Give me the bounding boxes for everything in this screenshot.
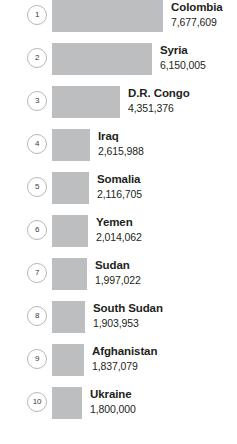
rank-badge: 6 — [27, 220, 47, 240]
chart-row: 3 D.R. Congo 4,351,376 — [0, 86, 237, 118]
country-label: D.R. Congo — [128, 85, 190, 101]
row-labels: Afghanistan 1,837,079 — [92, 343, 157, 374]
country-label: Yemen — [96, 214, 142, 230]
ranked-bar-chart: 1 Colombia 7,677,609 2 Syria 6,150,005 3… — [0, 0, 237, 444]
chart-row: 1 Colombia 7,677,609 — [0, 0, 237, 32]
chart-row: 10 Ukraine 1,800,000 — [0, 387, 237, 419]
value-bar — [52, 172, 89, 204]
row-labels: Syria 6,150,005 — [160, 42, 206, 73]
value-label: 2,014,062 — [96, 230, 142, 245]
value-label: 2,615,988 — [98, 144, 144, 159]
value-label: 7,677,609 — [171, 15, 223, 30]
country-label: Somalia — [97, 171, 142, 187]
rank-badge: 3 — [27, 91, 47, 111]
value-bar — [52, 86, 120, 118]
rank-label: 4 — [35, 140, 39, 148]
chart-row: 4 Iraq 2,615,988 — [0, 129, 237, 161]
value-bar — [52, 258, 87, 290]
value-label: 1,903,953 — [93, 316, 163, 331]
value-bar — [52, 301, 85, 333]
row-labels: Ukraine 1,800,000 — [90, 386, 136, 417]
value-bar — [52, 43, 152, 75]
row-labels: Iraq 2,615,988 — [98, 128, 144, 159]
rank-badge: 4 — [27, 134, 47, 154]
row-labels: Colombia 7,677,609 — [171, 0, 223, 30]
country-label: Ukraine — [90, 386, 136, 402]
rank-label: 3 — [35, 97, 39, 105]
row-labels: Sudan 1,997,022 — [95, 257, 141, 288]
value-label: 4,351,376 — [128, 101, 190, 116]
country-label: Afghanistan — [92, 343, 157, 359]
chart-row: 6 Yemen 2,014,062 — [0, 215, 237, 247]
rank-label: 9 — [35, 355, 39, 363]
row-labels: D.R. Congo 4,351,376 — [128, 85, 190, 116]
value-label: 2,116,705 — [97, 187, 142, 202]
row-labels: Yemen 2,014,062 — [96, 214, 142, 245]
chart-row: 5 Somalia 2,116,705 — [0, 172, 237, 204]
country-label: Colombia — [171, 0, 223, 15]
rank-badge: 2 — [27, 48, 47, 68]
country-label: Iraq — [98, 128, 144, 144]
rank-badge: 8 — [27, 306, 47, 326]
rank-label: 7 — [35, 269, 39, 277]
rank-badge: 1 — [27, 5, 47, 25]
rank-badge: 5 — [27, 177, 47, 197]
value-bar — [52, 215, 88, 247]
rank-label: 5 — [35, 183, 39, 191]
chart-row: 9 Afghanistan 1,837,079 — [0, 344, 237, 376]
value-label: 1,997,022 — [95, 273, 141, 288]
value-bar — [52, 0, 163, 32]
rank-label: 1 — [35, 11, 39, 19]
rank-label: 8 — [35, 312, 39, 320]
value-label: 1,800,000 — [90, 402, 136, 417]
value-label: 1,837,079 — [92, 359, 157, 374]
row-labels: South Sudan 1,903,953 — [93, 300, 163, 331]
value-label: 6,150,005 — [160, 58, 206, 73]
chart-row: 7 Sudan 1,997,022 — [0, 258, 237, 290]
country-label: Sudan — [95, 257, 141, 273]
value-bar — [52, 344, 84, 376]
value-bar — [52, 387, 82, 419]
rank-badge: 7 — [27, 263, 47, 283]
rank-badge: 9 — [27, 349, 47, 369]
row-labels: Somalia 2,116,705 — [97, 171, 142, 202]
country-label: South Sudan — [93, 300, 163, 316]
country-label: Syria — [160, 42, 206, 58]
rank-label: 10 — [33, 398, 42, 406]
chart-row: 2 Syria 6,150,005 — [0, 43, 237, 75]
rank-label: 6 — [35, 226, 39, 234]
rank-badge: 10 — [27, 392, 47, 412]
chart-row: 8 South Sudan 1,903,953 — [0, 301, 237, 333]
rank-label: 2 — [35, 54, 39, 62]
value-bar — [52, 129, 90, 161]
